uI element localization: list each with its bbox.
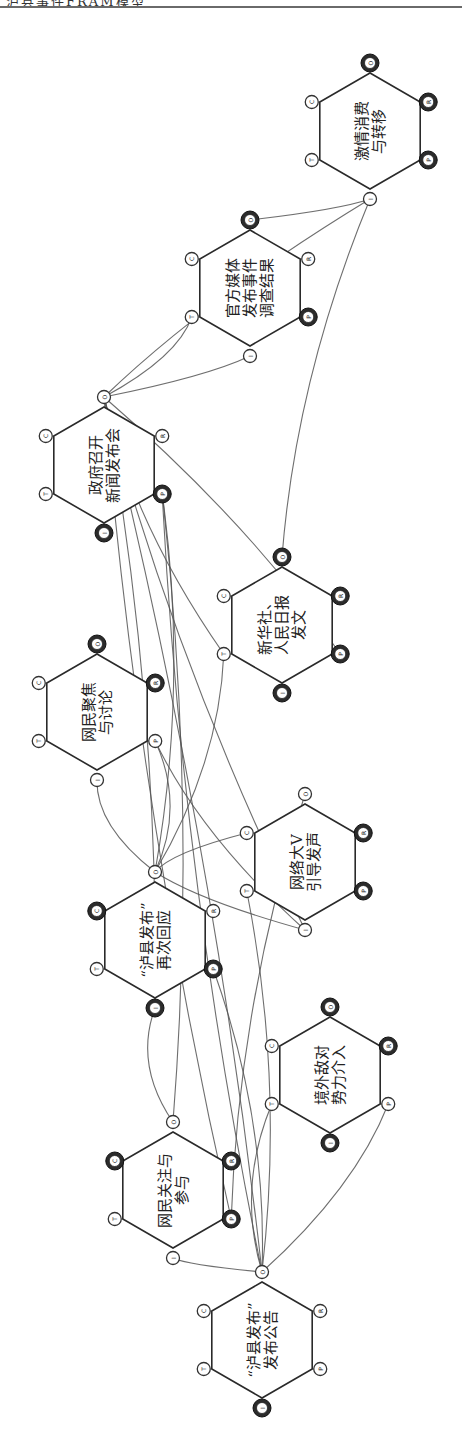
- function-label: 激情消费与转移: [353, 101, 388, 161]
- svg-text:C: C: [42, 434, 49, 438]
- function-label: 网络大V引导发声: [288, 832, 323, 892]
- aspect-I-icon: I: [244, 350, 257, 363]
- function-node-f6: 网民聚焦与讨论IOPRCT: [32, 635, 164, 787]
- function-node-f4: “泸县发布”再次回应IOPRCT: [88, 866, 222, 1018]
- function-label: 境外敌对势力介入: [313, 1045, 348, 1105]
- function-label: 网民聚焦与讨论: [80, 682, 115, 742]
- aspect-C-icon: C: [185, 253, 198, 266]
- aspect-I-icon: I: [364, 193, 377, 206]
- aspect-P-icon: P: [331, 645, 349, 663]
- aspect-P-icon: P: [222, 1210, 240, 1228]
- coupling-link: [162, 494, 183, 1122]
- coupling-link: [282, 199, 370, 557]
- aspect-I-icon: I: [321, 1134, 339, 1152]
- aspect-C-icon: C: [39, 430, 52, 443]
- aspect-I-icon: I: [273, 684, 291, 702]
- svg-text:C: C: [93, 909, 100, 913]
- svg-text:O: O: [152, 869, 159, 874]
- svg-text:O: O: [259, 1269, 266, 1274]
- aspect-P-icon: P: [354, 882, 372, 900]
- svg-text:R: R: [385, 1044, 392, 1048]
- aspect-I-icon: I: [299, 924, 312, 937]
- svg-text:T: T: [200, 1367, 207, 1372]
- svg-text:I: I: [259, 1407, 266, 1409]
- svg-text:T: T: [308, 158, 315, 163]
- svg-text:C: C: [111, 1159, 118, 1163]
- aspect-O-icon: O: [299, 788, 312, 801]
- svg-text:O: O: [247, 217, 254, 222]
- function-label: “泸县发布”再次回应: [138, 902, 173, 977]
- svg-text:O: O: [367, 60, 374, 65]
- function-hexagons: “泸县发布”发布公告IOPRCT网民关注与参与IOPRCT境外敌对势力介入IOP…: [32, 54, 437, 1417]
- aspect-O-icon: O: [98, 391, 111, 404]
- svg-text:P: P: [305, 315, 312, 319]
- function-node-f10: 激情消费与转移IOPRCT: [305, 54, 437, 206]
- aspect-R-icon: R: [419, 93, 437, 111]
- function-node-f1: “泸县发布”发布公告IOPRCT: [197, 1266, 326, 1418]
- aspect-C-icon: C: [265, 1040, 278, 1053]
- svg-text:C: C: [35, 681, 42, 685]
- svg-text:O: O: [101, 394, 108, 399]
- aspect-R-icon: R: [354, 824, 372, 842]
- aspect-C-icon: C: [197, 1305, 210, 1318]
- aspect-O-icon: O: [321, 998, 339, 1016]
- function-node-f2: 网民关注与参与IOPRCT: [106, 1116, 240, 1265]
- svg-text:C: C: [243, 831, 250, 835]
- svg-text:I: I: [170, 1257, 177, 1259]
- svg-text:O: O: [327, 1004, 334, 1009]
- svg-text:I: I: [327, 1142, 334, 1144]
- svg-text:P: P: [317, 1367, 324, 1371]
- aspect-O-icon: O: [256, 1266, 269, 1279]
- coupling-link: [104, 397, 231, 1219]
- aspect-R-icon: R: [207, 905, 220, 918]
- aspect-O-icon: O: [149, 866, 162, 879]
- svg-text:I: I: [94, 779, 101, 781]
- aspect-T-icon: T: [39, 488, 52, 501]
- function-label: 官方媒体发布事件调查结果: [224, 258, 276, 318]
- svg-text:C: C: [308, 100, 315, 104]
- svg-text:I: I: [152, 1007, 159, 1009]
- aspect-C-icon: C: [305, 96, 318, 109]
- svg-text:R: R: [228, 1159, 235, 1163]
- aspect-T-icon: T: [108, 1213, 121, 1226]
- svg-text:T: T: [243, 889, 250, 894]
- aspect-T-icon: T: [185, 311, 198, 324]
- svg-text:O: O: [279, 554, 286, 559]
- function-label: 政府召开新闻发布会: [87, 428, 122, 503]
- aspect-I-icon: I: [167, 1252, 180, 1265]
- aspect-I-icon: I: [146, 999, 164, 1017]
- function-label: “泸县发布”发布公告: [245, 1302, 280, 1377]
- svg-text:C: C: [188, 257, 195, 261]
- aspect-T-icon: T: [197, 1363, 210, 1376]
- aspect-R-icon: R: [331, 587, 349, 605]
- aspect-P-icon: P: [382, 1098, 395, 1111]
- svg-text:P: P: [159, 492, 166, 496]
- svg-text:T: T: [35, 739, 42, 744]
- svg-text:O: O: [170, 1119, 177, 1124]
- svg-text:I: I: [279, 692, 286, 694]
- svg-text:T: T: [220, 652, 227, 657]
- svg-text:R: R: [210, 909, 217, 913]
- aspect-T-icon: T: [32, 735, 45, 748]
- svg-text:R: R: [159, 434, 166, 438]
- fram-diagram: “泸县发布”发布公告IOPRCT网民关注与参与IOPRCT境外敌对势力介入IOP…: [0, 0, 462, 1449]
- aspect-P-icon: P: [314, 1363, 327, 1376]
- aspect-C-icon: C: [88, 902, 106, 920]
- svg-text:O: O: [302, 791, 309, 796]
- svg-text:R: R: [152, 681, 159, 685]
- svg-text:R: R: [337, 594, 344, 598]
- function-node-f7: 新华社、人民日报发文IOPRCT: [217, 548, 349, 702]
- svg-text:C: C: [220, 594, 227, 598]
- svg-text:P: P: [337, 652, 344, 656]
- aspect-O-icon: O: [167, 1116, 180, 1129]
- aspect-T-icon: T: [240, 885, 253, 898]
- aspect-C-icon: C: [217, 590, 230, 603]
- aspect-C-icon: C: [32, 677, 45, 690]
- aspect-I-icon: I: [91, 774, 104, 787]
- aspect-O-icon: O: [361, 54, 379, 72]
- coupling-link: [148, 1008, 173, 1122]
- aspect-P-icon: P: [149, 735, 162, 748]
- function-node-f5: 网络大V引导发声IOPRCT: [240, 788, 372, 937]
- aspect-P-icon: P: [299, 308, 317, 326]
- aspect-R-icon: R: [156, 430, 169, 443]
